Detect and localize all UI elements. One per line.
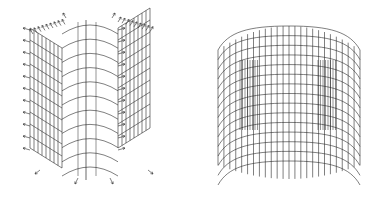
deformed-mesh-figure	[190, 0, 381, 198]
left-wireframe-panel	[0, 0, 190, 198]
right-wireframe-panel	[190, 0, 381, 198]
loaded-mesh-figure	[0, 0, 190, 198]
